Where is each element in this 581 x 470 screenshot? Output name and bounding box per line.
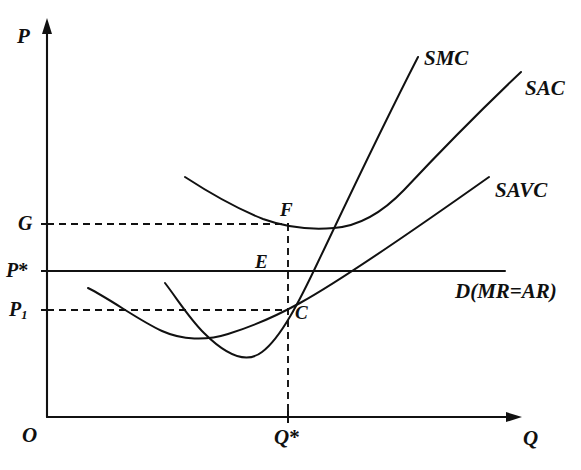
point-label-e: E bbox=[255, 252, 268, 271]
quantity-label-qstar-text: Q bbox=[274, 425, 289, 449]
y-axis-label: P bbox=[17, 26, 30, 47]
savc-curve-label: SAVC bbox=[495, 180, 547, 201]
sac-curve bbox=[185, 72, 521, 229]
price-label-pstar-star: * bbox=[18, 259, 28, 281]
x-axis-arrowhead bbox=[506, 412, 522, 422]
demand-curve-label: D(MR=AR) bbox=[455, 281, 557, 302]
point-label-c: C bbox=[295, 303, 308, 322]
price-label-p1-subscript: 1 bbox=[21, 308, 27, 322]
origin-label: O bbox=[22, 425, 37, 446]
price-label-g: G bbox=[18, 213, 32, 233]
figure-canvas bbox=[0, 0, 581, 470]
price-label-pstar: P* bbox=[6, 260, 28, 280]
price-label-pstar-text: P bbox=[6, 259, 18, 281]
price-label-p1: P1 bbox=[9, 299, 27, 322]
quantity-label-qstar-star: * bbox=[289, 425, 300, 449]
tick-marks-group bbox=[41, 224, 288, 423]
guide-lines-group bbox=[47, 224, 289, 417]
point-label-f: F bbox=[280, 200, 293, 219]
economics-figure: P Q O G P* P1 Q* SMC SAC SAVC D(MR=AR) F… bbox=[0, 0, 581, 470]
quantity-label-qstar: Q* bbox=[274, 427, 300, 448]
price-label-p1-text: P bbox=[9, 298, 21, 320]
axes-group bbox=[42, 18, 522, 422]
smc-curve-label: SMC bbox=[424, 48, 468, 69]
x-axis-label: Q bbox=[523, 428, 538, 449]
sac-curve-label: SAC bbox=[525, 78, 565, 99]
y-axis-arrowhead bbox=[42, 18, 52, 34]
